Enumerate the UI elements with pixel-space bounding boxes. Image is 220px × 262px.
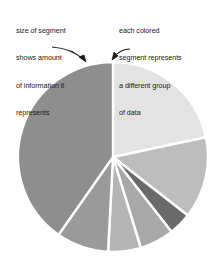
segment-size-callout: size of segment shows amount of informat… xyxy=(16,8,66,135)
callout-line: size of segment xyxy=(16,26,66,35)
callout-line: of data xyxy=(119,108,182,117)
callout-line: each colored xyxy=(119,26,182,35)
pie-chart-figure: size of segment shows amount of informat… xyxy=(0,0,220,262)
segment-color-callout: each colored segment represents a differ… xyxy=(119,8,182,135)
callout-line: a different group xyxy=(119,81,182,90)
callout-line: segment represents xyxy=(119,53,182,62)
callout-line: of information it xyxy=(16,81,66,90)
callout-line: represents xyxy=(16,108,66,117)
callout-line: shows amount xyxy=(16,53,66,62)
